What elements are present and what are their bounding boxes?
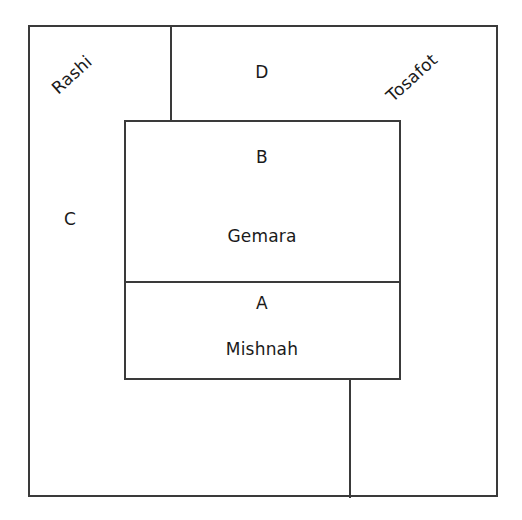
region-label-b: B [256, 149, 268, 166]
region-label-a: A [256, 295, 268, 312]
divider-rashi-column [170, 25, 172, 122]
region-label-gemara: Gemara [227, 228, 296, 245]
region-label-c: C [64, 211, 76, 228]
talmud-page-layout-diagram: Rashi Tosafot D C B Gemara A Mishnah [0, 0, 522, 520]
region-label-mishnah: Mishnah [226, 341, 298, 358]
region-label-d: D [255, 64, 268, 81]
divider-gemara-mishnah [124, 281, 401, 283]
divider-bottom-band [349, 379, 351, 498]
